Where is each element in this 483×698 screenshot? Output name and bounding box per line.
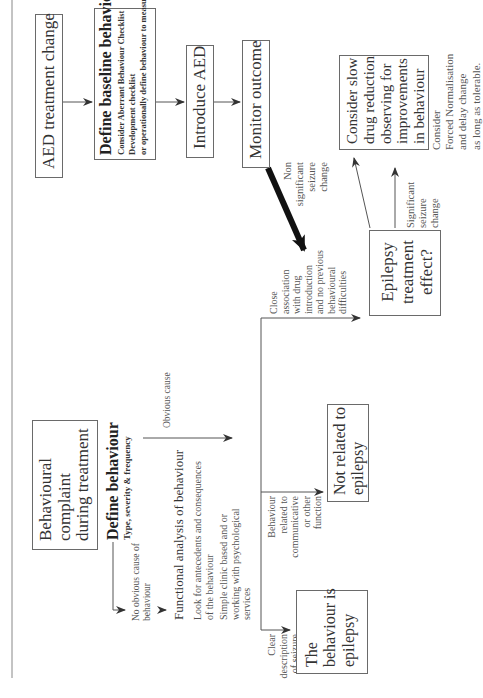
epi-line-2: treatment xyxy=(398,229,418,315)
close-line-2: association xyxy=(280,250,292,314)
no-obvious-cause-text: No obvious cause of behaviour xyxy=(131,543,153,621)
notrel-line-2: epilepsy xyxy=(349,407,367,495)
nonsig-line-1: Non xyxy=(282,162,294,214)
complaint-text: Behavioural complaint during treatment xyxy=(37,428,93,541)
monitor-outcome-label: Monitor outcome xyxy=(246,40,266,159)
no-obvious-line-1: No obvious cause of xyxy=(131,543,142,621)
close-line-1: Close xyxy=(268,250,280,314)
not-related-box: Not related to epilepsy xyxy=(327,404,369,502)
nonsig-line-3: seizure xyxy=(306,162,318,214)
no-obvious-line-2: behaviour xyxy=(142,543,153,621)
functional-l2-line-2: working with psychological xyxy=(230,508,242,620)
functional-l1-line-2: of the behaviour xyxy=(204,461,216,620)
complaint-line-3: during treatment xyxy=(74,428,93,541)
baseline-line1: Consider Aberrant Behaviour Checklist xyxy=(117,11,127,155)
non-significant-text: Non significant seizure change xyxy=(282,162,330,214)
related-line-5: function xyxy=(312,496,324,560)
clear-line-2: description xyxy=(278,634,290,680)
functional-l2-line-1: Simple clinic based and or xyxy=(218,508,230,620)
related-line-2: related to xyxy=(278,496,290,560)
close-line-3: with drug xyxy=(291,250,303,314)
forced-line-4: as long as tolerable. xyxy=(470,54,483,150)
epilepsy-treatment-effect-box: Epilepsy treatment effect? xyxy=(369,230,441,316)
not-related-text: Not related to epilepsy xyxy=(331,407,368,495)
forced-line-1: Consider xyxy=(430,54,443,150)
slow-reduction-box: Consider slow drug reduction observing f… xyxy=(339,55,429,150)
define-baseline-box: Define baseline behaviour Consider Aberr… xyxy=(94,8,156,160)
nonsig-line-4: change xyxy=(318,162,330,214)
functional-analysis-detail-1: Look for antecedents and consequences of… xyxy=(192,461,215,620)
sig-line-2: seizure xyxy=(417,182,429,228)
close-line-7: difficulties xyxy=(337,250,349,314)
isepi-line-2: behaviour is xyxy=(321,588,339,667)
notrel-line-1: Not related to xyxy=(331,407,349,495)
sig-line-1: Significant xyxy=(405,182,417,228)
functional-l2-line-3: services xyxy=(241,508,253,620)
close-line-4: introduction xyxy=(303,250,315,314)
baseline-line2: Development checklist xyxy=(128,74,138,155)
isepi-line-3: epilepsy xyxy=(340,588,358,667)
slow-line-5: in behaviour xyxy=(411,56,428,144)
introduce-aed-label: Introduce AED xyxy=(190,46,210,149)
forced-line-3: and delay change xyxy=(456,54,469,150)
forced-normalisation-text: Consider Forced Normalisation and delay … xyxy=(430,54,483,150)
significant-text: Significant seizure change xyxy=(405,182,441,228)
aed-treatment-change-box: AED treatment change xyxy=(35,14,63,178)
define-behaviour-subtitle: Type, severity & frequency xyxy=(122,436,132,540)
baseline-title: Define baseline behaviour xyxy=(97,0,115,155)
slow-line-1: Consider slow xyxy=(344,56,361,144)
define-behaviour-title: Define behaviour xyxy=(104,422,122,540)
complaint-line-2: complaint xyxy=(56,428,75,541)
nonsig-line-2: significant xyxy=(294,162,306,214)
slow-reduction-text: Consider slow drug reduction observing f… xyxy=(344,56,428,144)
forced-line-2: Forced Normalisation xyxy=(443,54,456,150)
clear-line-1: Clear xyxy=(266,634,278,680)
epi-line-3: effect? xyxy=(417,229,437,315)
related-communicative-text: Behaviour related to communicative or ot… xyxy=(266,496,324,560)
obvious-cause-label: Obvious cause xyxy=(162,372,173,428)
close-line-5: and no previous xyxy=(314,250,326,314)
functional-analysis-detail-2: Simple clinic based and or working with … xyxy=(218,508,253,620)
functional-analysis-title: Functional analysis of behaviour xyxy=(172,450,187,620)
is-epilepsy-text: The behaviour is epilepsy xyxy=(303,588,358,667)
monitor-outcome-box: Monitor outcome xyxy=(242,40,270,168)
slow-line-3: observing for xyxy=(378,56,395,144)
functional-l1-line-1: Look for antecedents and consequences xyxy=(192,461,204,620)
introduce-aed-box: Introduce AED xyxy=(186,45,214,158)
sig-line-3: change xyxy=(429,182,441,228)
close-line-6: behavioural xyxy=(326,250,338,314)
isepi-line-1: The xyxy=(303,588,321,667)
complaint-line-1: Behavioural xyxy=(37,428,56,541)
behaviour-is-epilepsy-box: The behaviour is epilepsy xyxy=(296,590,368,674)
related-line-3: communicative xyxy=(289,496,301,560)
related-line-4: or other xyxy=(301,496,313,560)
slow-line-2: drug reduction xyxy=(361,56,378,144)
slow-line-4: improvements xyxy=(394,56,411,144)
baseline-line3: or operationally define behaviour to mea… xyxy=(139,0,149,155)
epi-line-1: Epilepsy xyxy=(378,229,398,315)
close-association-text: Close association with drug introduction… xyxy=(268,250,349,314)
related-line-1: Behaviour xyxy=(266,496,278,560)
epilepsy-effect-text: Epilepsy treatment effect? xyxy=(378,229,437,315)
aed-treatment-change-label: AED treatment change xyxy=(39,13,59,169)
behavioural-complaint-box: Behavioural complaint during treatment xyxy=(32,420,98,550)
